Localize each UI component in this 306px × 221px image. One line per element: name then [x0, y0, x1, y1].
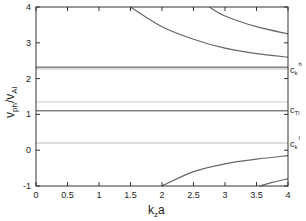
- curve-lower-branch-1: [162, 156, 288, 186]
- x-tick-label: 1.5: [124, 190, 137, 200]
- y-tick-label: -1: [23, 181, 31, 191]
- x-tick-label: 1: [96, 190, 101, 200]
- x-tick-label: 4: [285, 190, 290, 200]
- y-tick-label: 3: [26, 38, 31, 48]
- x-tick-label: 0.5: [61, 190, 74, 200]
- curve-upper-branch-2: [209, 7, 288, 34]
- curve-upper-branch-1: [131, 7, 289, 57]
- curve-lower-branch-2: [260, 179, 288, 186]
- label-ck-l: ckl: [290, 135, 300, 150]
- y-tick-label: 1: [26, 109, 31, 119]
- x-tick-label: 2.5: [187, 190, 200, 200]
- label-ck-h: ckh: [290, 61, 302, 76]
- x-tick-label: 3: [222, 190, 227, 200]
- x-tick-label: 0: [33, 190, 38, 200]
- plot-frame: [36, 7, 288, 186]
- plot-area: 00.511.522.533.54-101234: [23, 2, 291, 200]
- label-ct: cTl: [290, 105, 300, 116]
- dispersion-chart: 00.511.522.533.54-101234 kza vph/vAl ckh…: [0, 0, 306, 221]
- x-tick-label: 3.5: [250, 190, 263, 200]
- y-tick-label: 4: [26, 2, 31, 12]
- x-axis-label: kza: [148, 203, 165, 219]
- y-tick-label: 0: [26, 145, 31, 155]
- y-tick-label: 2: [26, 74, 31, 84]
- x-tick-label: 2: [159, 190, 164, 200]
- y-axis-label: vph/vAl: [3, 86, 19, 118]
